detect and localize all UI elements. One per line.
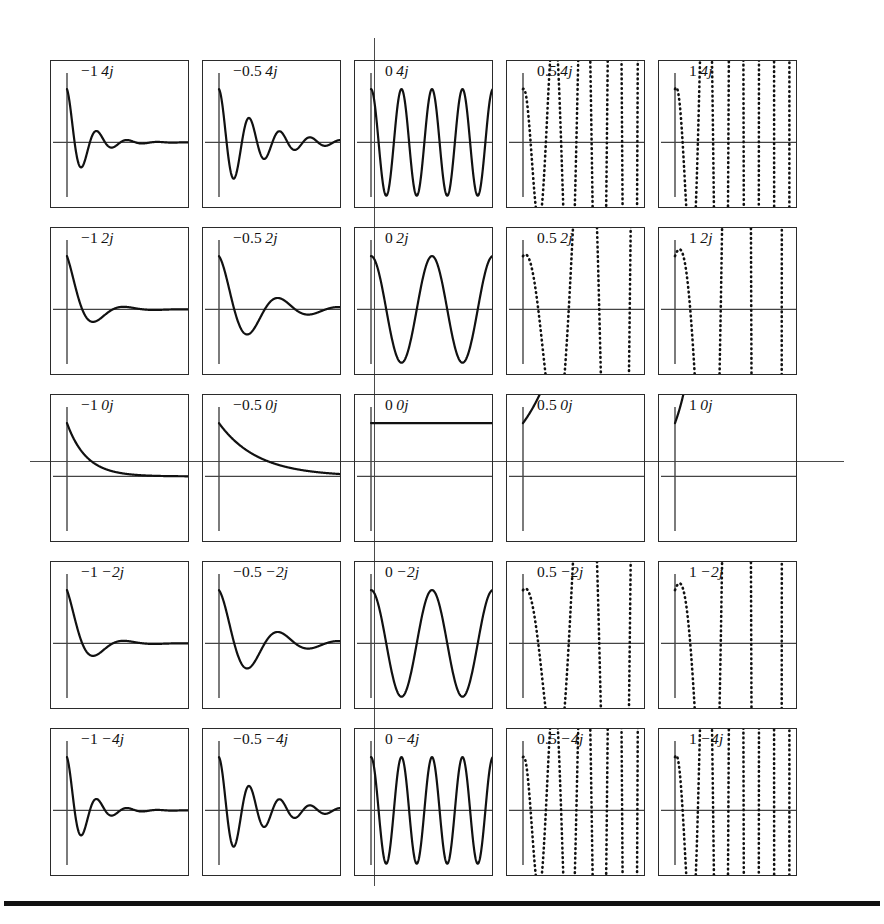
impulse-response-panel: 1 4j xyxy=(658,60,797,208)
panel-plot-area xyxy=(51,729,188,875)
impulse-response-panel: −1 2j xyxy=(50,227,189,375)
impulse-response-panel: −0.5 0j xyxy=(202,394,341,542)
panel-label-real: −0.5 xyxy=(233,62,262,79)
panel-label: −1 0j xyxy=(81,397,114,413)
panel-label-imaginary: 0j xyxy=(560,396,572,413)
panel-label-imaginary: −2j xyxy=(700,563,723,580)
response-curve xyxy=(219,256,340,334)
panel-plot-area xyxy=(355,729,492,875)
panel-label: 0.5 4j xyxy=(537,63,573,79)
panel-label-real: 0 xyxy=(385,396,393,413)
response-curve xyxy=(675,562,796,708)
response-curve xyxy=(523,562,644,708)
panel-plot-area xyxy=(659,228,796,374)
panel-label-real: 0 xyxy=(385,62,393,79)
panel-plot-area xyxy=(51,562,188,708)
panel-label-real: −1 xyxy=(81,229,98,246)
impulse-response-panel: 0 4j xyxy=(354,60,493,208)
response-curve xyxy=(219,89,340,179)
impulse-response-panel: 0 2j xyxy=(354,227,493,375)
panel-label-imaginary: 0j xyxy=(265,396,277,413)
impulse-response-panel: −1 0j xyxy=(50,394,189,542)
panel-plot-area xyxy=(659,61,796,207)
panel-label-imaginary: 4j xyxy=(396,62,408,79)
panel-label-real: 1 xyxy=(689,62,697,79)
panel-plot-area xyxy=(659,562,796,708)
panel-plot-area xyxy=(203,395,340,541)
impulse-response-panel: 0 −4j xyxy=(354,728,493,876)
impulse-response-panel: −0.5 −4j xyxy=(202,728,341,876)
panel-plot-area xyxy=(355,228,492,374)
panel-label-real: 0.5 xyxy=(537,563,557,580)
impulse-response-panel: −1 −2j xyxy=(50,561,189,709)
panel-label: 0 4j xyxy=(385,63,409,79)
panel-label-imaginary: 4j xyxy=(560,62,572,79)
panel-plot-area xyxy=(355,61,492,207)
panel-label: −1 4j xyxy=(81,63,114,79)
panel-grid: −1 4j−0.5 4j0 4j0.5 4j1 4j−1 2j−0.5 2j0 … xyxy=(50,60,842,878)
panel-plot-area xyxy=(355,395,492,541)
panel-label: 0 −2j xyxy=(385,564,419,580)
panel-plot-area xyxy=(51,61,188,207)
panel-label: 0.5 −4j xyxy=(537,731,583,747)
panel-plot-area xyxy=(507,395,644,541)
panel-label-imaginary: −2j xyxy=(101,563,124,580)
panel-plot-area xyxy=(203,228,340,374)
panel-label: 0.5 −2j xyxy=(537,564,583,580)
panel-label: 1 2j xyxy=(689,230,713,246)
panel-label-imaginary: 2j xyxy=(396,229,408,246)
panel-label-imaginary: −4j xyxy=(396,730,419,747)
panel-label-real: 0.5 xyxy=(537,62,557,79)
panel-label: −0.5 0j xyxy=(233,397,278,413)
panel-plot-area xyxy=(203,562,340,708)
panel-plot-area xyxy=(203,61,340,207)
response-curve xyxy=(523,729,644,875)
impulse-response-panel: 0.5 4j xyxy=(506,60,645,208)
panel-label: −0.5 2j xyxy=(233,230,278,246)
panel-plot-area xyxy=(659,729,796,875)
panel-label: −1 −4j xyxy=(81,731,124,747)
panel-label: 0.5 2j xyxy=(537,230,573,246)
panel-label-imaginary: −2j xyxy=(265,563,288,580)
impulse-response-panel: −0.5 −2j xyxy=(202,561,341,709)
panel-plot-area xyxy=(51,395,188,541)
response-curve xyxy=(219,757,340,847)
panel-label-imaginary: 0j xyxy=(101,396,113,413)
response-curve xyxy=(67,256,188,322)
panel-label-imaginary: 2j xyxy=(265,229,277,246)
response-curve xyxy=(675,61,796,207)
impulse-response-panel: 0 −2j xyxy=(354,561,493,709)
panel-label-imaginary: 2j xyxy=(700,229,712,246)
panel-label-real: −1 xyxy=(81,730,98,747)
panel-label-imaginary: 2j xyxy=(101,229,113,246)
response-curve xyxy=(67,89,188,167)
response-curve xyxy=(67,590,188,656)
panel-label: −0.5 4j xyxy=(233,63,278,79)
panel-label-imaginary: −4j xyxy=(700,730,723,747)
panel-label-real: −0.5 xyxy=(233,563,262,580)
response-curve xyxy=(219,423,340,474)
panel-label-real: 0 xyxy=(385,730,393,747)
impulse-response-panel: 1 −2j xyxy=(658,561,797,709)
panel-label-real: 0.5 xyxy=(537,396,557,413)
panel-label-real: −0.5 xyxy=(233,229,262,246)
panel-label: 1 0j xyxy=(689,397,713,413)
panel-label-imaginary: −2j xyxy=(396,563,419,580)
panel-label: −1 −2j xyxy=(81,564,124,580)
panel-plot-area xyxy=(507,562,644,708)
panel-label-real: 0 xyxy=(385,229,393,246)
impulse-response-panel: −1 −4j xyxy=(50,728,189,876)
response-curve xyxy=(67,423,188,476)
panel-plot-area xyxy=(507,61,644,207)
response-curve xyxy=(523,61,644,207)
response-curve xyxy=(523,228,644,374)
impulse-response-panel: 0.5 −2j xyxy=(506,561,645,709)
panel-label-imaginary: −4j xyxy=(560,730,583,747)
panel-label-real: 0 xyxy=(385,563,393,580)
panel-label-real: −0.5 xyxy=(233,396,262,413)
response-curve xyxy=(67,757,188,835)
panel-label-real: −1 xyxy=(81,62,98,79)
impulse-response-panel: 0 0j xyxy=(354,394,493,542)
panel-label: −0.5 −2j xyxy=(233,564,288,580)
impulse-response-panel: 0.5 −4j xyxy=(506,728,645,876)
